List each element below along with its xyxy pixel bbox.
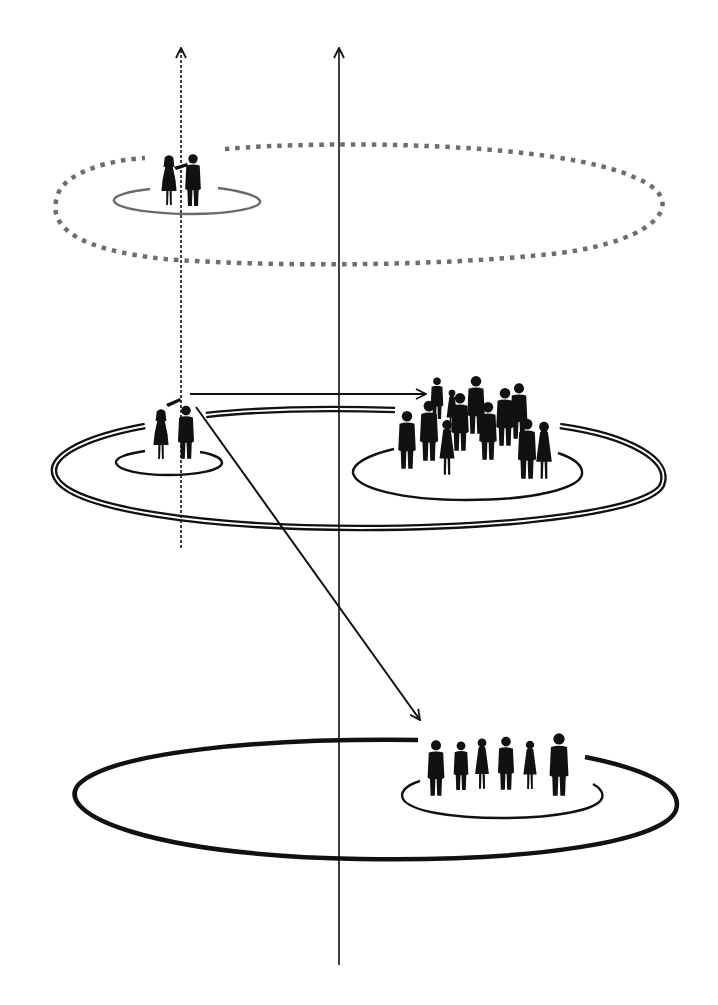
person-icon xyxy=(454,741,469,790)
diagram-canvas xyxy=(0,0,718,1005)
person-icon xyxy=(550,733,569,795)
person-icon xyxy=(398,411,416,469)
outer-ring-top-dotted xyxy=(55,144,662,264)
person-icon xyxy=(428,740,445,795)
arrow-couple-to-bottom-group xyxy=(196,407,420,720)
person-icon xyxy=(161,155,176,205)
level-top xyxy=(55,144,662,264)
person-icon xyxy=(523,741,536,789)
level-middle xyxy=(54,376,663,528)
outer-ring-middle-double xyxy=(54,409,663,528)
level-bottom xyxy=(75,733,677,859)
person-icon xyxy=(511,383,528,438)
person-icon xyxy=(153,409,168,459)
crowd-middle xyxy=(398,376,552,479)
couple-middle xyxy=(153,398,194,459)
network-levels-diagram xyxy=(0,0,718,1005)
person-icon xyxy=(475,738,489,788)
outer-ring-bottom xyxy=(75,740,677,859)
person-icon xyxy=(536,422,552,479)
person-icon xyxy=(498,737,514,790)
inner-ring-top xyxy=(114,188,260,214)
person-icon xyxy=(185,154,201,206)
group-bottom xyxy=(428,733,569,796)
inner-ring-middle-couple xyxy=(116,451,222,475)
person-icon xyxy=(431,378,444,420)
